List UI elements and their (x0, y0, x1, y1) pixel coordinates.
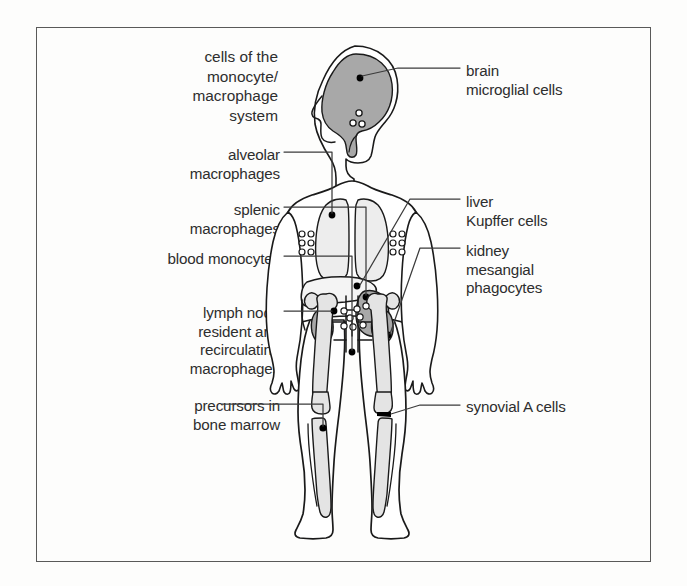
left-knee-femur (312, 392, 330, 414)
right-knee-femur (374, 392, 392, 414)
diagram-page: cells of the monocyte/ macrophage system… (0, 0, 687, 586)
marker-liver (354, 283, 361, 290)
right-arm (401, 212, 438, 394)
left-arm (266, 212, 303, 394)
anatomical-figure (0, 0, 687, 586)
